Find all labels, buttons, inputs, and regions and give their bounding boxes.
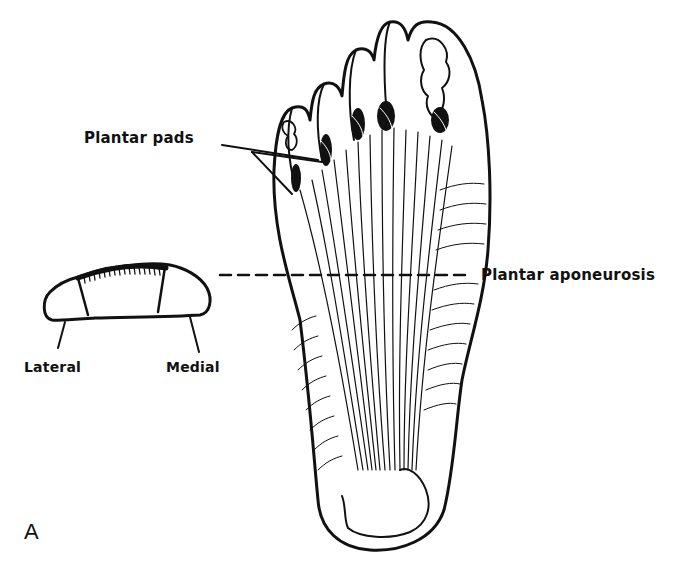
plantar-pads-leader-lines [222,145,322,194]
plantar-aponeurosis-label: Plantar aponeurosis [481,266,655,284]
figure-panel-letter: A [24,519,39,545]
plantar-pads-label: Plantar pads [84,129,194,147]
foot-drawing [274,22,490,551]
lateral-label: Lateral [24,359,81,375]
cross-section-drawing [44,264,210,352]
medial-label: Medial [166,359,220,375]
